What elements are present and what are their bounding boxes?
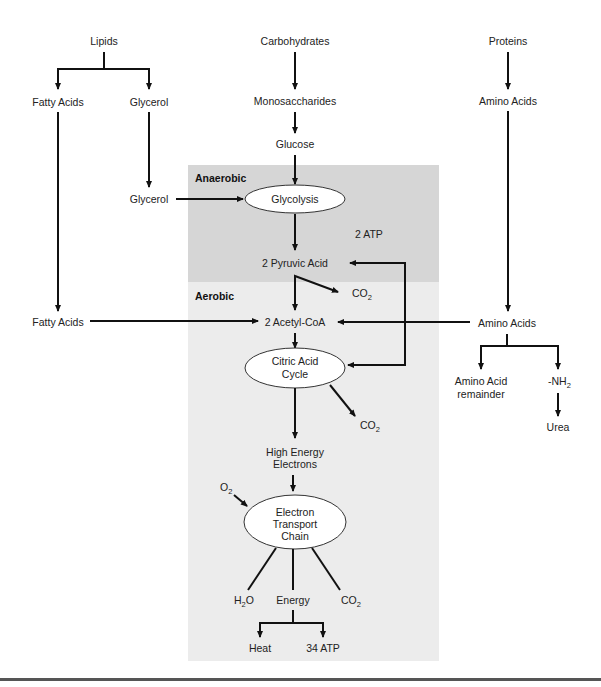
edge-lipids-branch [58, 69, 149, 88]
node-urea: Urea [547, 421, 570, 433]
aerobic-label: Aerobic [195, 290, 234, 302]
node-heat: Heat [249, 642, 271, 654]
node-lipids: Lipids [90, 35, 117, 47]
bottom-rule [0, 678, 601, 681]
node-monosaccharides: Monosaccharides [254, 95, 336, 107]
node-2-atp: 2 ATP [355, 228, 383, 240]
node-glycerol-top: Glycerol [130, 96, 169, 108]
node-fatty-acids-mid: Fatty Acids [32, 316, 83, 328]
node-glucose: Glucose [276, 138, 315, 150]
node-carbohydrates: Carbohydrates [261, 35, 330, 47]
high-energy-electrons-label-1: High Energy [266, 446, 325, 458]
node-proteins: Proteins [489, 35, 528, 47]
anaerobic-label: Anaerobic [195, 172, 247, 184]
etc-label-3: Chain [281, 530, 309, 542]
amino-remainder-label-2: remainder [457, 388, 505, 400]
node-acetyl-coa: 2 Acetyl-CoA [265, 316, 326, 328]
node-glycerol-mid: Glycerol [130, 193, 169, 205]
node-pyruvic-acid: 2 Pyruvic Acid [262, 257, 328, 269]
etc-label-1: Electron [276, 506, 315, 518]
high-energy-electrons-label-2: Electrons [273, 458, 317, 470]
node-34-atp: 34 ATP [306, 642, 340, 654]
citric-acid-cycle-label-2: Cycle [282, 368, 308, 380]
citric-acid-cycle-label-1: Citric Acid [272, 355, 319, 367]
etc-label-2: Transport [273, 518, 318, 530]
metabolism-diagram: Anaerobic Aerobic Lipids Fatty Acids Gly… [0, 0, 601, 687]
node-amino-acids-mid: Amino Acids [478, 317, 536, 329]
node-energy: Energy [276, 594, 310, 606]
node-fatty-acids-top: Fatty Acids [32, 96, 83, 108]
node-nh2: -NH2 [548, 375, 571, 390]
amino-remainder-label-1: Amino Acid [455, 375, 508, 387]
aerobic-zone [188, 282, 439, 661]
glycolysis-label: Glycolysis [271, 193, 318, 205]
node-amino-acids-top: Amino Acids [479, 95, 537, 107]
